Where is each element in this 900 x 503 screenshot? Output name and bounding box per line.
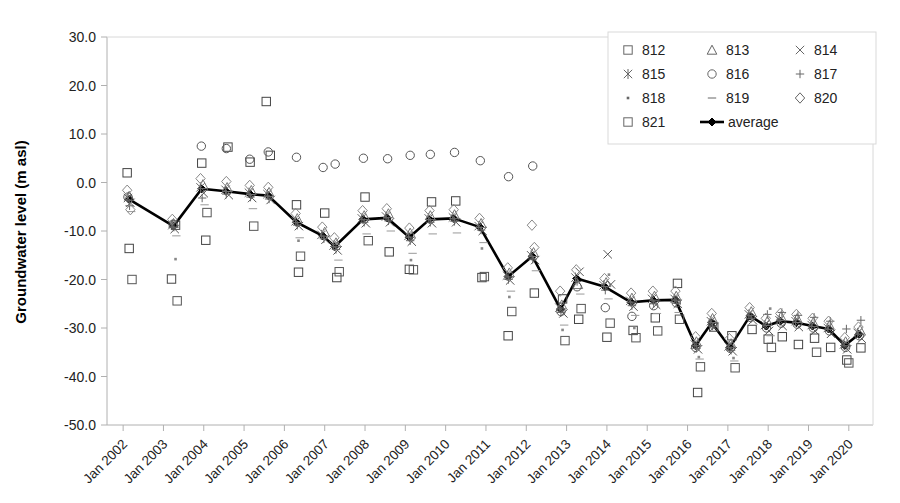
data-point-dot xyxy=(698,356,701,359)
y-tick-label: -30.0 xyxy=(64,320,96,336)
legend-label-820: 820 xyxy=(814,90,838,106)
legend-label-817: 817 xyxy=(814,66,838,82)
legend-label-818: 818 xyxy=(642,90,666,106)
y-tick-label: 0.0 xyxy=(77,175,97,191)
chart-canvas: Groundwater level (m asl) 30.020.010.00.… xyxy=(0,0,900,503)
data-point-dot xyxy=(561,329,564,332)
groundwater-level-chart: Groundwater level (m asl) 30.020.010.00.… xyxy=(0,0,900,503)
chart-legend: 812813814815816817818819820821average xyxy=(608,32,876,144)
y-tick-label: -10.0 xyxy=(64,223,96,239)
y-axis-title: Groundwater level (m asl) xyxy=(12,140,29,323)
y-tick-label: 30.0 xyxy=(69,29,96,45)
data-point-dot xyxy=(732,357,735,360)
legend-label-819: 819 xyxy=(726,90,750,106)
data-point-dot xyxy=(769,307,772,310)
y-tick-label: -20.0 xyxy=(64,272,96,288)
data-point-dot xyxy=(336,242,339,245)
data-point-dot xyxy=(608,273,611,276)
legend-label-average: average xyxy=(728,114,779,130)
legend-label-814: 814 xyxy=(814,42,838,58)
y-axis-title-text: Groundwater level (m asl) xyxy=(12,140,29,323)
data-point-dot xyxy=(174,258,177,261)
y-tick-label: -40.0 xyxy=(64,369,96,385)
data-point-dot xyxy=(633,327,636,330)
data-point-dot xyxy=(410,259,413,262)
data-point-dot xyxy=(627,97,630,100)
legend-label-816: 816 xyxy=(726,66,750,82)
y-tick-label: 20.0 xyxy=(69,78,96,94)
data-point-dot xyxy=(481,247,484,250)
data-point-dot xyxy=(297,239,300,242)
legend-label-815: 815 xyxy=(642,66,666,82)
legend-label-813: 813 xyxy=(726,42,750,58)
data-point-dot xyxy=(508,296,511,299)
legend-label-812: 812 xyxy=(642,42,666,58)
y-tick-label: -50.0 xyxy=(64,417,96,433)
legend-label-821: 821 xyxy=(642,114,666,130)
y-tick-label: 10.0 xyxy=(69,126,96,142)
